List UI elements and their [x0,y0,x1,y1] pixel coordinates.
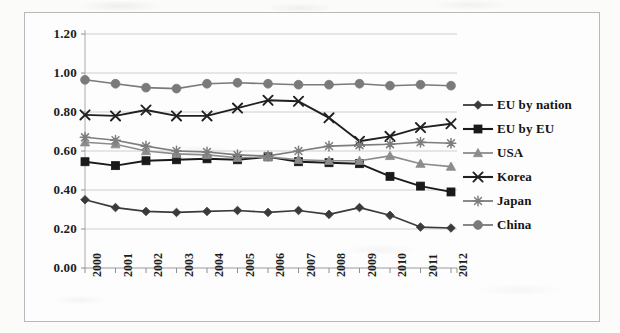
x-axis-tick-label: 2005 [243,253,258,277]
series-korea [80,96,455,146]
legend-label: EU by nation [497,97,572,113]
data-point [386,172,394,180]
data-point [325,80,334,89]
x-axis-tick-label: 2004 [212,253,227,277]
data-point [264,208,273,217]
data-point [355,140,365,150]
data-point [447,224,456,233]
x-axis-tick-label: 2012 [456,253,471,277]
x-axis-tick-label: 2011 [426,254,441,277]
legend-item-usa[interactable]: USA [462,144,572,161]
asterisk-marker-icon [462,194,494,208]
x-axis-tick-label: 2001 [121,253,136,277]
y-axis-tick-label: 0.20 [21,221,77,237]
legend-label: China [497,217,531,233]
data-point [202,147,212,157]
x-axis-tick-label: 2000 [90,253,105,277]
data-point [417,182,425,190]
data-point [325,210,334,219]
diamond-marker-icon [462,98,494,112]
y-axis-tick-label: 0.00 [21,260,77,276]
data-point [111,79,120,88]
data-point [80,133,90,143]
square-marker-icon [462,122,494,136]
data-point [203,207,212,216]
data-point [324,113,333,122]
legend-marker [474,220,483,229]
data-point [172,208,181,217]
gridlines-group [85,34,457,229]
legend-label: USA [497,145,523,161]
data-point [294,80,303,89]
y-axis-tick-label: 0.80 [21,104,77,120]
x-axis-tick-label: 2008 [334,253,349,277]
data-point [386,81,395,90]
series-eu-by-nation [81,195,456,232]
data-series-group [80,75,456,232]
data-point [81,75,90,84]
data-point [386,211,395,220]
data-point [142,157,150,165]
legend-label: Korea [497,169,532,185]
legend-label: EU by EU [497,121,554,137]
data-point [355,203,364,212]
legend-marker [474,100,483,109]
x-axis-tick-label: 2002 [151,253,166,277]
data-point [81,195,90,204]
series-line [85,100,451,141]
y-axis-tick-label: 1.00 [21,65,77,81]
y-axis-tick-label: 0.60 [21,143,77,159]
data-point [81,158,89,166]
x-axis-tick-label: 2007 [304,253,319,277]
legend-item-japan[interactable]: Japan [462,192,572,209]
data-point [142,83,151,92]
data-point [294,206,303,215]
axes-group [85,30,457,268]
data-point [385,139,395,149]
data-point [233,78,242,87]
chart-legend: EU by nationEU by EUUSAKoreaJapanChina [462,96,572,233]
series-japan [80,133,456,161]
series-china [81,75,456,93]
legend-item-eu-by-nation[interactable]: EU by nation [462,96,572,113]
data-point [172,84,181,93]
x-axis-tick-label: 2003 [182,253,197,277]
y-axis-tick-label: 1.20 [21,26,77,42]
x-axis-tick-label: 2010 [395,253,410,277]
triangle-marker-icon [462,146,494,160]
data-point [385,151,394,159]
data-point [141,141,151,151]
data-point [111,203,120,212]
legend-item-eu-by-eu[interactable]: EU by EU [462,120,572,137]
legend-item-korea[interactable]: Korea [462,168,572,185]
y-axis-tick-label: 0.40 [21,182,77,198]
data-point [264,79,273,88]
series-line [85,157,451,192]
legend-item-china[interactable]: China [462,216,572,233]
x-marker-icon [462,170,494,184]
y-axis-ticks-group [81,34,85,268]
circle-marker-icon [462,218,494,232]
data-point [142,207,151,216]
x-axis-tick-label: 2009 [365,253,380,277]
data-point [294,146,304,156]
data-point [112,162,120,170]
legend-marker [474,125,482,133]
data-point [416,80,425,89]
data-point [447,81,456,90]
legend-marker [473,196,483,206]
data-point [324,141,334,151]
data-point [111,135,121,145]
data-point [355,79,364,88]
data-point [233,150,243,160]
data-point [416,223,425,232]
data-point [446,138,456,148]
data-point [416,137,426,147]
data-point [263,151,273,161]
data-point [172,146,182,156]
legend-label: Japan [497,193,531,209]
x-axis-tick-label: 2006 [273,253,288,277]
data-point [203,79,212,88]
data-point [233,206,242,215]
data-point [447,188,455,196]
